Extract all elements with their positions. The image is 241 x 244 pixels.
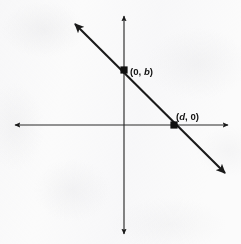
point-label-y-intercept-suffix: ) <box>150 66 153 77</box>
coordinate-plane-diagram: (0, b) (d, 0) <box>0 0 241 244</box>
point-label-y-intercept-prefix: (0, <box>130 66 144 77</box>
coordinate-plane-figure: (0, b) (d, 0) <box>0 0 241 244</box>
point-label-x-intercept: (d, 0) <box>176 111 199 122</box>
point-marker-y-intercept <box>120 66 127 73</box>
point-label-x-intercept-suffix: , 0) <box>185 111 199 122</box>
point-marker-x-intercept <box>170 121 177 128</box>
point-label-y-intercept: (0, b) <box>130 66 153 77</box>
plotted-line <box>75 24 225 173</box>
